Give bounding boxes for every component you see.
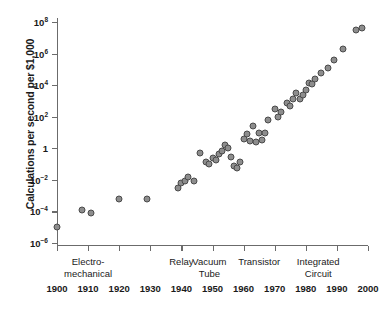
x-tick-label: 2000 xyxy=(357,283,378,294)
y-tick-label: 10−2 xyxy=(0,174,48,186)
x-tick-mark xyxy=(275,246,276,251)
data-point xyxy=(228,153,235,160)
data-point xyxy=(324,64,331,71)
x-tick-label: 1930 xyxy=(140,283,161,294)
x-tick-label: 1920 xyxy=(109,283,130,294)
data-point xyxy=(243,131,250,138)
data-point xyxy=(116,195,123,202)
x-tick-label: 1960 xyxy=(233,283,254,294)
y-tick-mark xyxy=(52,180,57,181)
era-label: Transistor xyxy=(238,256,280,268)
x-tick-mark xyxy=(181,246,182,251)
y-tick-label: 1 xyxy=(0,143,48,154)
y-tick-mark xyxy=(52,85,57,86)
data-point xyxy=(277,108,284,115)
x-tick-label: 1900 xyxy=(46,283,67,294)
x-tick-mark xyxy=(244,246,245,251)
x-tick-label: 1970 xyxy=(264,283,285,294)
data-point xyxy=(312,75,319,82)
data-point xyxy=(358,25,365,32)
data-point xyxy=(287,103,294,110)
x-tick-label: 1990 xyxy=(326,283,347,294)
x-tick-label: 1910 xyxy=(78,283,99,294)
y-tick-label: 10−4 xyxy=(0,205,48,217)
y-tick-mark xyxy=(52,148,57,149)
data-point xyxy=(234,165,241,172)
y-axis-line xyxy=(57,18,58,246)
y-tick-label: 106 xyxy=(0,47,48,59)
era-label: Vacuum Tube xyxy=(192,256,226,279)
data-point xyxy=(212,157,219,164)
data-point xyxy=(225,145,232,152)
data-point xyxy=(265,116,272,123)
x-tick-mark xyxy=(57,246,58,251)
x-tick-label: 1940 xyxy=(171,283,192,294)
x-tick-mark xyxy=(306,246,307,251)
data-point xyxy=(330,56,337,63)
data-point xyxy=(262,129,269,136)
y-tick-mark xyxy=(52,243,57,244)
x-tick-mark xyxy=(150,246,151,251)
data-point xyxy=(54,224,61,231)
data-point xyxy=(197,150,204,157)
data-point xyxy=(78,206,85,213)
y-tick-label: 104 xyxy=(0,79,48,91)
data-point xyxy=(249,123,256,130)
x-tick-label: 1980 xyxy=(295,283,316,294)
x-tick-mark xyxy=(119,246,120,251)
x-tick-label: 1950 xyxy=(202,283,223,294)
data-point xyxy=(144,195,151,202)
data-point xyxy=(302,86,309,93)
data-point xyxy=(318,69,325,76)
y-tick-mark xyxy=(52,22,57,23)
y-tick-mark xyxy=(52,54,57,55)
y-tick-mark xyxy=(52,211,57,212)
era-label: Integrated Circuit xyxy=(297,256,340,279)
data-point xyxy=(340,45,347,52)
x-tick-mark xyxy=(337,246,338,251)
x-tick-mark xyxy=(213,246,214,251)
data-point xyxy=(237,158,244,165)
y-tick-mark xyxy=(52,117,57,118)
data-point xyxy=(190,178,197,185)
x-tick-mark xyxy=(88,246,89,251)
scatter-chart: Calculations per second per $1,000 10810… xyxy=(0,0,386,312)
data-point xyxy=(259,136,266,143)
data-point xyxy=(88,210,95,217)
y-tick-label: 10−6 xyxy=(0,237,48,249)
era-label: Relay xyxy=(169,256,193,268)
y-tick-label: 108 xyxy=(0,16,48,28)
x-tick-mark xyxy=(368,246,369,251)
y-tick-label: 102 xyxy=(0,111,48,123)
era-label: Electro- mechanical xyxy=(64,256,112,279)
